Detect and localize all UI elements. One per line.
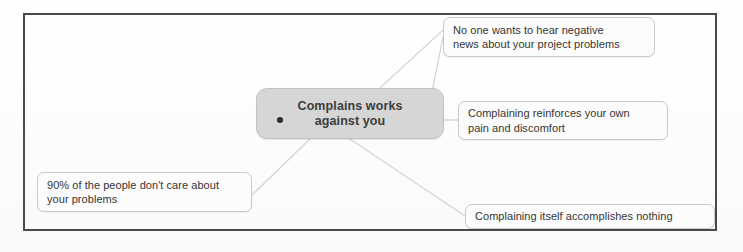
callout-mid-right-label: Complaining reinforces your ownpain and … <box>468 106 630 135</box>
callout-bottom-right-label: Complaining itself accomplishes nothing <box>475 209 673 224</box>
callout-mid-right[interactable]: Complaining reinforces your ownpain and … <box>458 101 668 140</box>
central-node-label: Complains worksagainst you <box>298 99 403 129</box>
callout-bottom-left[interactable]: 90% of the people don't care aboutyour p… <box>37 172 252 212</box>
central-node-line-1: Complains works <box>298 99 403 113</box>
callout-bottom-left-label: 90% of the people don't care aboutyour p… <box>47 178 219 207</box>
callout-top-right-line-2: news about your project problems <box>453 38 620 50</box>
callout-mid-right-line-1: Complaining reinforces your own <box>468 107 630 119</box>
callout-mid-right-line-2: pain and discomfort <box>468 122 565 134</box>
callout-top-right[interactable]: No one wants to hear negativenews about … <box>443 17 655 57</box>
diagram-page: Complains worksagainst you No one wants … <box>0 0 743 252</box>
central-node-line-2: against you <box>315 114 386 128</box>
callout-top-right-label: No one wants to hear negativenews about … <box>453 23 620 52</box>
callout-bottom-left-line-2: your problems <box>47 193 117 205</box>
central-node[interactable]: Complains worksagainst you <box>256 88 444 139</box>
callout-bottom-right[interactable]: Complaining itself accomplishes nothing <box>465 204 715 229</box>
bullet-icon <box>277 117 283 123</box>
callout-bottom-left-line-1: 90% of the people don't care about <box>47 179 219 191</box>
callout-top-right-line-1: No one wants to hear negative <box>453 24 604 36</box>
